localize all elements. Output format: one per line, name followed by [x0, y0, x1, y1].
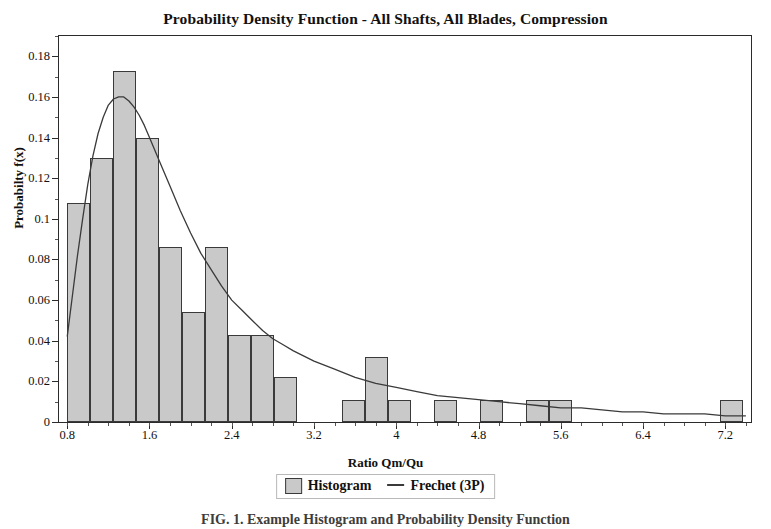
x-minor-tick — [108, 423, 109, 426]
x-minor-tick — [170, 423, 171, 426]
histogram-swatch-icon — [285, 478, 302, 494]
x-minor-tick — [725, 423, 726, 426]
y-tick-label: 0.04 — [28, 333, 50, 348]
x-tick-label: 4 — [393, 428, 399, 443]
x-minor-tick — [581, 423, 582, 426]
y-tick-label: 0.06 — [28, 293, 50, 308]
x-minor-tick — [437, 423, 438, 426]
x-minor-tick — [664, 423, 665, 426]
x-minor-tick — [622, 423, 623, 426]
x-minor-tick — [129, 423, 130, 426]
x-tick-label: 6.4 — [635, 428, 651, 443]
y-axis-label: Probabilty f(x) — [11, 147, 27, 229]
legend-label-frechet: Frechet (3P) — [410, 478, 484, 494]
x-minor-tick — [540, 423, 541, 426]
x-minor-tick — [684, 423, 685, 426]
x-minor-tick — [314, 423, 315, 426]
plot-inner — [59, 36, 751, 422]
x-minor-tick — [479, 423, 480, 426]
legend-label-histogram: Histogram — [308, 478, 372, 494]
legend-item-frechet[interactable]: Frechet (3P) — [387, 478, 484, 494]
y-tick-label: 0 — [44, 415, 50, 430]
y-tick-label: 0.12 — [28, 171, 50, 186]
x-minor-tick — [561, 423, 562, 426]
x-minor-tick — [643, 423, 644, 426]
x-minor-tick — [191, 423, 192, 426]
x-tick-label: 3.2 — [306, 428, 322, 443]
frechet-line-icon — [387, 484, 404, 486]
figure-caption: FIG. 1. Example Histogram and Probabilit… — [0, 512, 771, 529]
x-minor-tick — [293, 423, 294, 426]
x-minor-tick — [458, 423, 459, 426]
legend-item-histogram[interactable]: Histogram — [285, 478, 372, 494]
x-tick-label: 2.4 — [224, 428, 240, 443]
y-tick-label: 0.1 — [34, 211, 50, 226]
y-axis-ticks: 00.020.040.060.080.10.120.140.160.18 — [0, 0, 56, 529]
y-tick-label: 0.02 — [28, 374, 50, 389]
x-minor-tick — [273, 423, 274, 426]
x-minor-tick — [67, 423, 68, 426]
y-tick-label: 0.08 — [28, 252, 50, 267]
x-minor-tick — [396, 423, 397, 426]
x-minor-tick — [335, 423, 336, 426]
x-minor-tick — [705, 423, 706, 426]
x-minor-tick — [211, 423, 212, 426]
chart-legend: Histogram Frechet (3P) — [276, 474, 496, 499]
y-tick-label: 0.14 — [28, 130, 50, 145]
x-minor-tick — [417, 423, 418, 426]
y-tick-label: 0.18 — [28, 49, 50, 64]
frechet-fit-curve — [59, 36, 751, 422]
y-tick-label: 0.16 — [28, 89, 50, 104]
chart-page: Probability Density Function - All Shaft… — [0, 0, 771, 529]
x-minor-tick — [355, 423, 356, 426]
x-minor-tick — [746, 423, 747, 426]
x-tick-label: 4.8 — [471, 428, 487, 443]
x-minor-tick — [376, 423, 377, 426]
x-minor-tick — [602, 423, 603, 426]
x-minor-tick — [520, 423, 521, 426]
chart-title: Probability Density Function - All Shaft… — [0, 10, 771, 28]
x-minor-tick — [232, 423, 233, 426]
x-tick-label: 1.6 — [142, 428, 158, 443]
plot-area — [58, 35, 752, 423]
x-tick-label: 5.6 — [553, 428, 569, 443]
x-minor-tick — [88, 423, 89, 426]
x-tick-label: 0.8 — [59, 428, 75, 443]
x-tick-label: 7.2 — [717, 428, 733, 443]
x-minor-tick — [149, 423, 150, 426]
x-minor-tick — [499, 423, 500, 426]
x-minor-tick — [252, 423, 253, 426]
x-axis-label: Ratio Qm/Qu — [0, 455, 771, 471]
